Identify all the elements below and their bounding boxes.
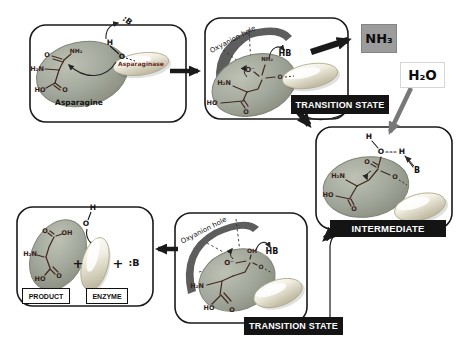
atom-label: NH₂ (261, 57, 273, 63)
water-h-label: H (366, 133, 372, 141)
hb-label: HB (266, 248, 279, 256)
water-o-label: O (378, 148, 384, 156)
atom-label: H₂N (331, 173, 345, 180)
plus-sign: + (73, 257, 84, 270)
atom-label: HO (35, 87, 46, 94)
atom-label: O⁻ (224, 260, 234, 267)
atom-label: H₂N (30, 66, 44, 73)
transition-state-badge: TRANSITION STATE (291, 95, 389, 114)
atom-label: O (229, 307, 235, 314)
atom-label: O (56, 273, 62, 280)
ammonia-product: NH₃ (361, 24, 397, 53)
atom-label: NH₂ (70, 48, 83, 54)
plus-sign: + (113, 257, 124, 270)
atom-label: HO (323, 192, 334, 199)
atom-label: O⁻ (245, 67, 255, 74)
atom-label: O (62, 87, 68, 94)
atom-label: O (364, 159, 370, 166)
atom-label: H₂N (23, 251, 37, 258)
connector-intermediate-ts2 (330, 228, 345, 317)
enzyme-mechanism-diagram: :B H O Asparaginase Asparagine O NH₂ H₂N… (0, 0, 461, 353)
atom-label: HO (35, 276, 46, 283)
atom-label: O (351, 206, 357, 213)
atom-label: O (243, 109, 249, 116)
atom-label: O (42, 228, 48, 235)
enzyme-h-label: H (90, 204, 96, 212)
base-label: :B (128, 258, 139, 268)
product-badge: PRODUCT (22, 288, 70, 304)
atom-label: HO (207, 100, 218, 107)
asparaginase-label: Asparaginase (118, 61, 164, 67)
atom-label: O (258, 264, 263, 270)
atom-label: O (392, 174, 398, 181)
transition-state-badge: TRANSITION STATE (244, 317, 343, 335)
enzyme-badge: ENZYME (86, 288, 128, 304)
arrow-water-in (390, 88, 411, 132)
atom-label: O (44, 52, 50, 59)
water-h-label: H (399, 148, 405, 156)
atom-label: OH (247, 248, 257, 254)
atom-label: H₂N (190, 283, 204, 290)
atom-label: H₂N (217, 80, 231, 87)
asparagine-label: Asparagine (55, 99, 103, 107)
proton-label: H (107, 39, 113, 47)
enzyme-o-label: O (83, 220, 89, 228)
intermediate-badge: INTERMEDIATE (330, 220, 446, 237)
hb-label: HB (279, 50, 292, 58)
atom-label: O (277, 74, 282, 80)
base-label: B (414, 167, 420, 175)
water-reactant: H₂O (400, 62, 445, 88)
atom-label: OH (62, 230, 73, 237)
atom-label: HO (204, 305, 215, 312)
